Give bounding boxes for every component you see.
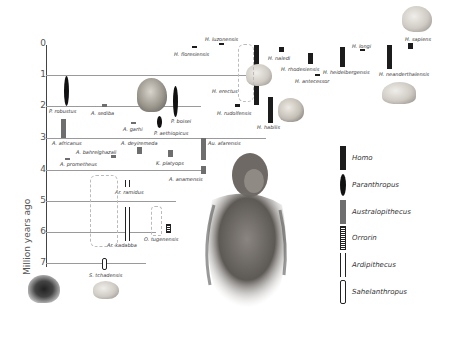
label-h-habilis: H. habilis	[257, 124, 280, 130]
legend-swatch-paranthropus	[340, 174, 346, 196]
label-a-deyiremeda: A. deyiremeda	[121, 140, 158, 146]
label-a-prometheus: A. prometheus	[60, 161, 97, 167]
legend-label-australopithecus: Australopithecus	[352, 208, 411, 216]
bar-a-bahrelghazali	[111, 155, 116, 158]
skull-illustration-h-neanderthalensis	[382, 82, 416, 104]
tick-6: 6	[34, 226, 46, 236]
bar-h-rudolfensis	[235, 104, 240, 107]
bar-p-robustus	[64, 76, 69, 106]
label-h-erectus: H. erectus	[212, 88, 238, 94]
chimp-head-illustration	[28, 275, 60, 303]
label-p-robustus: P. robustus	[49, 108, 76, 114]
tick-7: 7	[34, 257, 46, 267]
bar-k-platyops	[168, 150, 173, 157]
tick-1: 1	[34, 69, 46, 79]
tick-0: 0	[34, 38, 46, 48]
label-s-tchadensis: S. tchadensis	[89, 272, 122, 278]
bar-h-heidelbergensis	[340, 47, 345, 67]
tick-2: 2	[34, 100, 46, 110]
legend-swatch-orrorin	[340, 226, 346, 250]
label-h-heidelbergensis: H. heidelbergensis	[323, 69, 370, 75]
bar-p-aethiopicus	[157, 116, 162, 128]
legend-swatch-homo	[340, 146, 346, 170]
bar-h-habilis	[268, 97, 273, 123]
y-axis-line	[46, 45, 47, 267]
legend-label-orrorin: Orrorin	[352, 234, 377, 242]
bar-s-tchadensis	[102, 258, 107, 270]
skull-illustration-s-tchadensis	[93, 281, 119, 299]
label-h-luzonensis: H. luzonensis	[205, 36, 238, 42]
label-h-longi: H. longi	[352, 43, 371, 49]
bar-h-antecessor	[315, 74, 320, 76]
label-h-rudolfensis: H. rudolfensis	[217, 110, 251, 116]
bar-ar-kadabba	[125, 207, 130, 241]
legend-swatch-ardipithecus	[340, 253, 346, 277]
y-axis-title: Million years ago	[22, 199, 32, 275]
gridline-3	[46, 138, 266, 139]
label-a-sediba: A. sediba	[91, 110, 114, 116]
skeleton-illustration-ar-ramidus	[90, 175, 118, 247]
legend-paranthropus: Paranthropus	[340, 174, 399, 196]
label-p-aethiopicus: P. aethiopicus	[154, 130, 188, 136]
skull-illustration-h-sapiens	[402, 6, 432, 32]
bar-ar-ramidus	[125, 180, 130, 187]
bar-o-tugenensis	[166, 224, 171, 233]
label-o-tugenensis: O. tugenensis	[144, 236, 178, 242]
legend-ardipithecus: Ardipithecus	[340, 253, 396, 277]
label-h-floresiensis: H. floresiensis	[174, 51, 209, 57]
legend-swatch-australopithecus	[340, 200, 346, 224]
label-k-platyops: K. platyops	[156, 160, 184, 166]
bar-h-naledi	[279, 47, 284, 52]
bar-h-luzonensis	[219, 43, 224, 45]
bar-p-boisei	[173, 86, 178, 117]
tick-4: 4	[34, 164, 46, 174]
gridline-7	[46, 263, 146, 264]
bar-h-sapiens	[408, 43, 413, 49]
bar-a-prometheus	[65, 158, 70, 160]
hominin-illustration-au-afarensis	[192, 145, 302, 325]
label-a-bahrelghazali: A. bahrelghazali	[76, 149, 117, 155]
legend-label-paranthropus: Paranthropus	[352, 181, 399, 189]
bar-h-rhodesiensis	[308, 53, 313, 64]
skull-illustration-h-habilis	[278, 98, 304, 122]
femur-illustration-o-tugenensis	[151, 206, 162, 236]
label-a-africanus: A. africanus	[52, 140, 82, 146]
legend-orrorin: Orrorin	[340, 226, 377, 250]
legend-homo: Homo	[340, 146, 373, 170]
label-a-garhi: A. garhi	[123, 126, 143, 132]
legend-label-sahelanthropus: Sahelanthropus	[352, 288, 407, 296]
legend-label-homo: Homo	[352, 154, 373, 162]
gridline-1	[46, 75, 261, 76]
label-ar-ramidus: Ar. ramidus	[115, 189, 144, 195]
label-h-sapiens: H. sapiens	[405, 36, 431, 42]
gridline-4	[46, 170, 206, 171]
legend-label-ardipithecus: Ardipithecus	[352, 261, 396, 269]
bar-h-neanderthalensis	[387, 45, 392, 69]
bar-h-longi	[360, 49, 365, 51]
legend-australopithecus: Australopithecus	[340, 200, 411, 224]
tick-3: 3	[34, 132, 46, 142]
tick-5: 5	[34, 195, 46, 205]
bar-a-africanus	[61, 119, 66, 138]
label-h-antecessor: H. antecessor	[295, 78, 329, 84]
label-p-boisei: P. boisei	[171, 118, 191, 124]
label-h-naledi: H. naledi	[268, 55, 290, 61]
bar-a-deyiremeda	[137, 147, 142, 154]
label-h-neanderthalensis: H. neanderthalensis	[379, 71, 429, 77]
legend-swatch-sahelanthropus	[340, 280, 346, 304]
legend-sahelanthropus: Sahelanthropus	[340, 280, 407, 304]
label-h-rhodesiensis: H. rhodesiensis	[281, 66, 319, 72]
skull-illustration-p-boisei	[137, 78, 167, 112]
skeleton-illustration-h-erectus	[238, 44, 254, 102]
bar-h-floresiensis	[192, 46, 197, 48]
bar-a-sediba	[102, 104, 107, 107]
bar-a-garhi	[131, 122, 136, 124]
